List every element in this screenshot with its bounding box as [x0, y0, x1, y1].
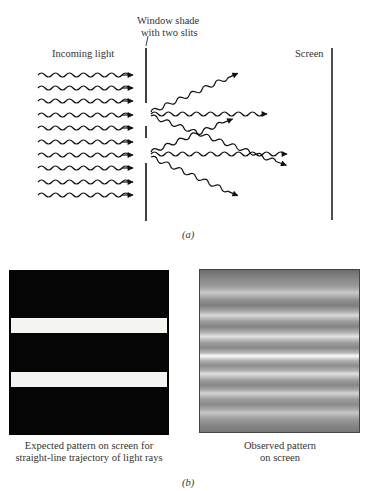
- expected-pattern-panel: [9, 270, 169, 435]
- expected-bright-bar-1: [11, 318, 167, 333]
- shade-label-line2: with two slits: [141, 27, 198, 39]
- observed-caption: Observed pattern on screen: [214, 440, 346, 464]
- diffracted-waves: [150, 72, 287, 198]
- incoming-light-label: Incoming light: [52, 48, 114, 60]
- caption-a: (a): [182, 229, 194, 241]
- expected-caption-line2: straight-line trajectory of light rays: [4, 452, 174, 464]
- screen-label: Screen: [295, 48, 324, 60]
- observed-caption-line2: on screen: [214, 452, 346, 464]
- shade-label-line1: Window shade: [137, 15, 199, 27]
- expected-caption-line1: Expected pattern on screen for: [4, 440, 174, 452]
- expected-bright-bar-2: [11, 372, 167, 387]
- observed-interference-pattern: [199, 269, 360, 433]
- caption-b: (b): [182, 477, 194, 489]
- expected-caption: Expected pattern on screen for straight-…: [4, 440, 174, 464]
- incoming-light-waves: [38, 73, 133, 197]
- observed-caption-line1: Observed pattern: [214, 440, 346, 452]
